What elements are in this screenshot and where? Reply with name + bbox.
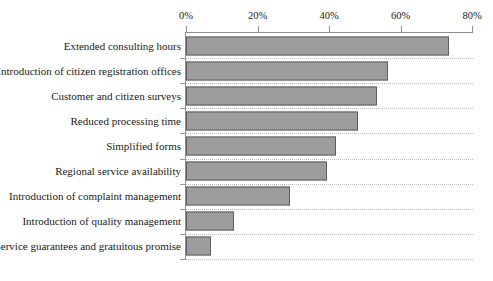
bar-chart: 0%20%40%60%80% Extended consulting hours… bbox=[0, 0, 493, 281]
bar bbox=[186, 86, 377, 105]
bar-category-label: Reduced processing time bbox=[70, 114, 181, 127]
x-tick-label: 40% bbox=[319, 10, 338, 22]
bar bbox=[186, 237, 211, 256]
bar-category-label: Extended consulting hours bbox=[64, 39, 181, 52]
x-tick-60pct bbox=[401, 26, 402, 33]
x-tick-label: 0% bbox=[179, 10, 193, 22]
gridline-tick bbox=[180, 259, 186, 260]
bar-row: Reduced processing time bbox=[0, 108, 493, 133]
bar-row: Regional service availability bbox=[0, 159, 493, 184]
bar-category-label: Regional service availability bbox=[55, 165, 181, 178]
gridline bbox=[186, 259, 473, 260]
bar bbox=[186, 111, 358, 130]
bar bbox=[186, 61, 388, 80]
x-tick-label: 60% bbox=[391, 10, 410, 22]
bar-category-label: Customer and citizen surveys bbox=[51, 89, 181, 102]
bar-row: Service guarantees and gratuitous promis… bbox=[0, 234, 493, 259]
x-tick-label: 20% bbox=[248, 10, 267, 22]
bar bbox=[186, 212, 234, 231]
x-tick-40pct bbox=[329, 26, 330, 33]
bar-category-label: Introduction of quality management bbox=[22, 215, 181, 228]
bar-category-label: Introduction of citizen registration off… bbox=[0, 64, 181, 77]
bar-category-label: Service guarantees and gratuitous promis… bbox=[0, 240, 181, 253]
bar-row: Extended consulting hours bbox=[0, 33, 493, 58]
bar-category-label: Simplified forms bbox=[106, 139, 181, 152]
bar bbox=[186, 136, 336, 155]
x-tick-80pct bbox=[472, 26, 473, 33]
bar-row: Introduction of complaint management bbox=[0, 184, 493, 209]
bar-row: Introduction of quality management bbox=[0, 209, 493, 234]
bar bbox=[186, 187, 290, 206]
bar-category-label: Introduction of complaint management bbox=[9, 190, 181, 203]
x-tick-0pct bbox=[186, 26, 187, 33]
bar-row: Customer and citizen surveys bbox=[0, 83, 493, 108]
bar bbox=[186, 162, 327, 181]
bar-row: Simplified forms bbox=[0, 133, 493, 158]
x-tick-20pct bbox=[258, 26, 259, 33]
x-tick-label: 80% bbox=[462, 10, 481, 22]
bar bbox=[186, 36, 449, 55]
bar-row: Introduction of citizen registration off… bbox=[0, 58, 493, 83]
